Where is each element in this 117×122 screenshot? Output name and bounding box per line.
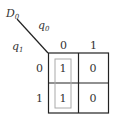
column-variable-label: q0 (38, 20, 50, 35)
row-variable-label: q1 (12, 41, 24, 56)
output-variable-label: D0 (6, 8, 19, 23)
row-label-1: 1 (36, 93, 43, 104)
cell-r1-c0: 1 (48, 83, 78, 113)
column-label-1: 1 (90, 40, 97, 51)
row-label-0: 0 (36, 63, 43, 74)
cell-r1-c1: 0 (78, 83, 108, 113)
cell-r0-c1: 0 (78, 53, 108, 83)
cell-r0-c0: 1 (48, 53, 78, 83)
column-label-0: 0 (60, 40, 67, 51)
